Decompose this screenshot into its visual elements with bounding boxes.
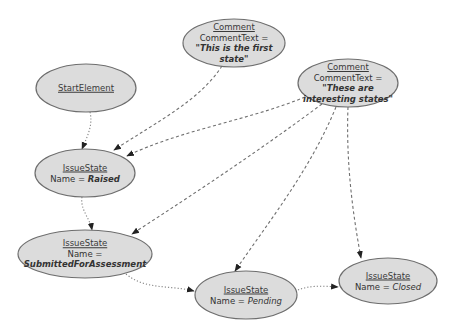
label-issue-state-pending: IssueState Name = Pending — [210, 285, 282, 306]
node-type-name: IssueState — [50, 163, 120, 174]
edge-submitted-to-pending[interactable] — [126, 274, 194, 291]
node-attr-label: CommentText = — [196, 33, 273, 44]
label-issue-state-submitted: IssueState Name = SubmittedForAssessment — [24, 238, 147, 270]
node-attr-line: Name = Pending — [210, 295, 282, 306]
edge-start-to-raised[interactable] — [82, 112, 91, 149]
node-type-name: IssueState — [355, 271, 421, 282]
label-comment-2: Comment CommentText = "These are interes… — [303, 62, 393, 104]
node-attr-label: Name = — [210, 295, 248, 305]
node-type-name: Comment — [196, 22, 273, 33]
label-issue-state-closed: IssueState Name = Closed — [355, 271, 421, 292]
edge-comment2-to-submitted[interactable] — [132, 104, 322, 234]
node-attr-label: CommentText = — [303, 73, 393, 84]
node-attr-label: Name = — [24, 249, 147, 260]
edge-comment2-to-pending[interactable] — [235, 107, 336, 271]
edge-raised-to-submitted[interactable] — [82, 197, 92, 230]
node-attr-value: SubmittedForAssessment — [24, 259, 147, 270]
node-type-name: IssueState — [24, 238, 147, 249]
node-attr-value: Pending — [248, 295, 282, 305]
label-comment-1: Comment CommentText = "This is the first… — [196, 22, 273, 64]
node-attr-line: Name = Raised — [50, 173, 120, 184]
node-attr-label: Name = — [355, 281, 393, 291]
node-attr-line: Name = Closed — [355, 281, 421, 292]
node-attr-value: Closed — [393, 281, 422, 291]
edge-comment2-to-raised[interactable] — [127, 97, 305, 156]
edge-comment2-to-closed[interactable] — [348, 107, 361, 258]
node-attr-label: Name = — [50, 173, 88, 183]
label-issue-state-raised: IssueState Name = Raised — [50, 163, 120, 184]
node-attr-value: "These are — [303, 83, 393, 94]
node-attr-value: state" — [196, 54, 273, 65]
edge-pending-to-closed[interactable] — [298, 286, 338, 290]
label-start-element: StartElement — [58, 83, 114, 94]
node-attr-value: interesting states" — [303, 94, 393, 105]
node-attr-value: Raised — [88, 173, 120, 183]
node-type-name: Comment — [303, 62, 393, 73]
node-type-name: IssueState — [210, 285, 282, 296]
node-attr-value: "This is the first — [196, 43, 273, 54]
node-type-name: StartElement — [58, 83, 114, 94]
